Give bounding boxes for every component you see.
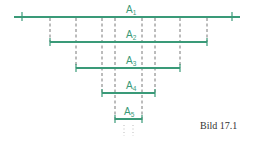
continuation-dots [124, 125, 133, 136]
svg-text:A3: A3 [126, 55, 137, 67]
interval-a3: A3 [76, 55, 180, 72]
svg-text:A4: A4 [126, 80, 137, 92]
figure-caption: Bild 17.1 [200, 120, 237, 131]
interval-a4: A4 [102, 80, 155, 97]
svg-text:A1: A1 [126, 4, 137, 16]
svg-text:A2: A2 [126, 29, 137, 41]
interval-a5: A5 [115, 106, 142, 123]
interval-a1: A1 [14, 4, 240, 21]
svg-text:A5: A5 [124, 106, 135, 118]
interval-a2: A2 [50, 29, 207, 46]
